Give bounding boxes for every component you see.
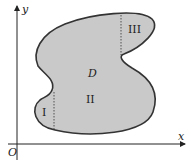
origin-label: O [8, 147, 17, 158]
subregion-ii-label: II [86, 94, 95, 105]
diagram-canvas [0, 0, 191, 166]
diagram: y x O D I II III [0, 0, 191, 166]
subregion-i-label: I [42, 107, 46, 118]
region-d-label: D [88, 68, 97, 79]
subregion-iii-label: III [128, 24, 141, 35]
y-axis-label: y [22, 4, 28, 15]
x-axis-label: x [178, 131, 184, 142]
